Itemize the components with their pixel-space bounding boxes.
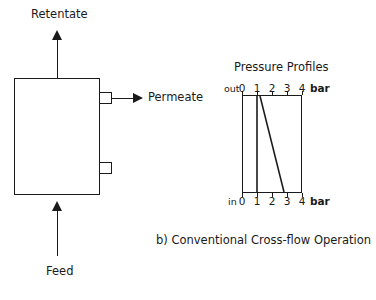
axis-tick-label: 3 — [284, 196, 291, 207]
axis-tick-label: 4 — [299, 83, 306, 94]
axis-tick-label: 2 — [269, 196, 276, 207]
figure-caption: b) Conventional Cross-flow Operation — [156, 235, 371, 247]
permeate-label: Permeate — [148, 92, 203, 104]
retentate-label: Retentate — [31, 9, 88, 21]
axis-top-unit-label: bar — [310, 83, 330, 94]
lower-port — [99, 162, 112, 174]
profile-line-feed-retentate-pressure — [260, 96, 284, 192]
pressure-profile-lines — [242, 95, 302, 193]
feed-arrow-stem — [57, 208, 58, 256]
feed-arrow-head-icon — [52, 201, 62, 211]
axis-bottom-unit-label: bar — [310, 196, 330, 207]
axis-tick-label: 0 — [239, 196, 246, 207]
axis-tick-label: 0 — [239, 83, 246, 94]
retentate-arrow-head-icon — [52, 30, 62, 40]
permeate-port — [99, 92, 112, 104]
permeate-arrow-head-icon — [133, 93, 143, 103]
figure-conventional-crossflow: Retentate Feed Permeate Pressure Profile… — [0, 0, 376, 300]
axis-tick-label: 2 — [269, 83, 276, 94]
membrane-module-box — [14, 78, 100, 195]
axis-bottom-name-label: in — [228, 197, 237, 207]
feed-label: Feed — [46, 266, 73, 278]
axis-tick-label: 4 — [299, 196, 306, 207]
axis-tick-label: 3 — [284, 83, 291, 94]
axis-tick-label: 1 — [254, 83, 261, 94]
retentate-arrow-stem — [57, 36, 58, 78]
axis-top-name-label: out — [224, 84, 240, 94]
chart-title: Pressure Profiles — [234, 62, 329, 74]
axis-tick-label: 1 — [254, 196, 261, 207]
